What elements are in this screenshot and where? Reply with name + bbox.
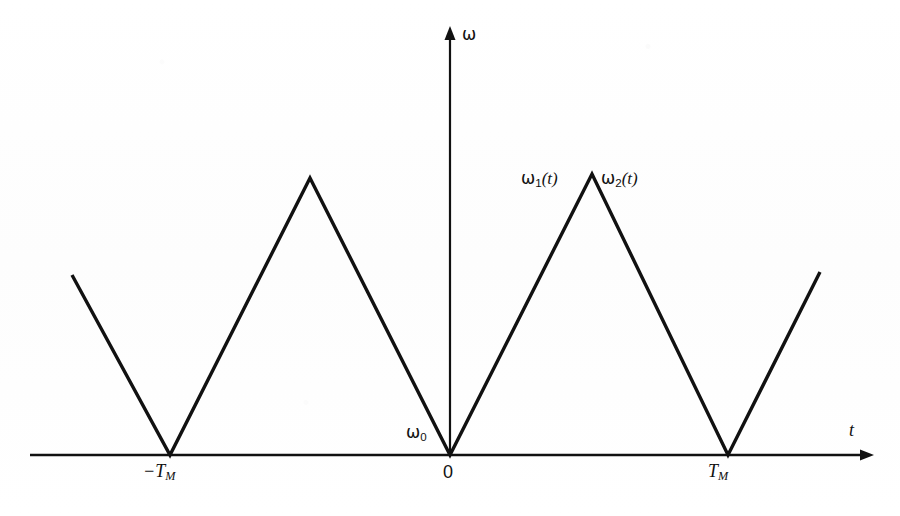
omega-zero-label: ω0 (406, 424, 427, 444)
frequency-waveform (72, 174, 820, 455)
origin-tick-label: 0 (443, 463, 453, 481)
tick-label-positive-tm: TM (708, 462, 728, 483)
tick-label-negative-tm: −TM (143, 462, 175, 483)
omega-two-label: ω2(t) (601, 170, 638, 190)
omega-axis (445, 26, 456, 455)
t-axis-arrowhead (860, 450, 874, 461)
t-axis-label: t (849, 421, 854, 439)
omega-axis-label: ω (462, 26, 476, 43)
omega-axis-arrowhead (445, 26, 456, 40)
omega-one-label: ω1(t) (521, 170, 558, 190)
waveform-plot (0, 0, 900, 516)
figure-canvas: ω t ω0 ω1(t) ω2(t) 0 −TM TM (0, 0, 900, 516)
